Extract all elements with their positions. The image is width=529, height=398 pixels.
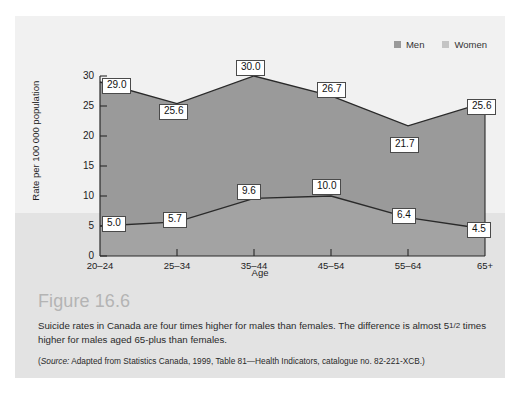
ytick-label-25: 25 xyxy=(72,101,94,111)
caption-part-1: Suicide rates in Canada are four times h… xyxy=(38,320,449,331)
men-value-label-25-34: 25.6 xyxy=(159,104,188,120)
caption-block: Figure 16.6 Suicide rates in Canada are … xyxy=(38,292,490,367)
ytick-label-15: 15 xyxy=(72,161,94,171)
women-value-label-65plus: 4.5 xyxy=(467,222,491,238)
women-value-label-55-64: 6.4 xyxy=(392,208,416,224)
ytick-label-5: 5 xyxy=(72,221,94,231)
caption-fraction: 1/2 xyxy=(449,321,460,330)
y-axis-title: Rate per 100 000 population xyxy=(31,71,41,211)
legend-swatch-men xyxy=(394,41,401,48)
x-axis-title: Age xyxy=(15,267,505,278)
legend-item-women: Women xyxy=(442,40,487,50)
ytick-label-10: 10 xyxy=(72,191,94,201)
women-value-label-20-24: 5.0 xyxy=(102,216,126,232)
figure-caption: Suicide rates in Canada are four times h… xyxy=(38,319,490,347)
men-value-label-55-64: 21.7 xyxy=(390,137,419,153)
source-text: Adapted from Statistics Canada, 1999, Ta… xyxy=(69,356,424,366)
figure-card: Men Women xyxy=(15,16,505,378)
figure-source: (Source: Adapted from Statistics Canada,… xyxy=(38,356,490,367)
source-label: Source: xyxy=(41,356,70,366)
chart-plot-area: 0 5 10 15 20 25 30 Rate per 100 000 popu… xyxy=(15,16,505,286)
men-value-label-45-54: 26.7 xyxy=(317,82,346,98)
legend-swatch-women xyxy=(442,41,449,48)
women-value-label-35-44: 9.6 xyxy=(237,184,261,200)
legend-item-men: Men xyxy=(394,40,424,50)
chart-svg xyxy=(15,16,505,286)
legend-label-women: Women xyxy=(454,40,487,50)
chart-legend: Men Women xyxy=(394,40,487,50)
ytick-label-20: 20 xyxy=(72,131,94,141)
men-value-label-35-44: 30.0 xyxy=(236,60,265,76)
ytick-label-30: 30 xyxy=(72,71,94,81)
men-value-label-20-24: 29.0 xyxy=(102,78,131,94)
women-value-label-45-54: 10.0 xyxy=(312,179,341,195)
figure-title: Figure 16.6 xyxy=(38,292,490,310)
men-value-label-65plus: 25.6 xyxy=(467,99,496,115)
legend-label-men: Men xyxy=(406,40,424,50)
women-value-label-25-34: 5.7 xyxy=(163,212,187,228)
